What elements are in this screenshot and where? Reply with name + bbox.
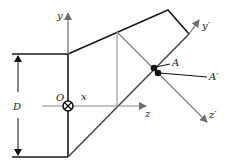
z-axis-label: z	[144, 108, 151, 119]
top-edge-outline	[68, 10, 189, 54]
point-a-prime-leader	[160, 73, 207, 77]
y-prime-axis-label: y′	[201, 20, 211, 31]
diagram-canvas: y y′ z z′ x O A A′ D	[0, 0, 229, 166]
origin-into-page-icon	[63, 101, 73, 111]
origin-label: O	[56, 92, 64, 103]
point-a-prime-label: A′	[208, 71, 219, 82]
point-a-label: A	[171, 57, 179, 68]
y-prime-axis	[189, 20, 199, 34]
y-axis-label: y	[56, 10, 63, 21]
dimension-d-label: D	[12, 101, 21, 112]
z-prime-axis	[117, 32, 207, 122]
diagram-svg: y y′ z z′ x O A A′ D	[0, 0, 229, 166]
z-prime-axis-label: z′	[208, 109, 217, 120]
x-axis-label: x	[81, 91, 87, 102]
